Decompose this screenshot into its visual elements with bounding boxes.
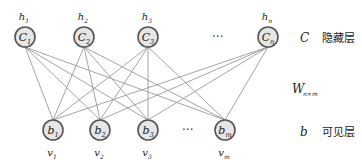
- hidden-layer-nodes: C1h1C2h2C3h3Cnhn: [15, 11, 278, 47]
- diagram-svg: C1h1C2h2C3h3Cnhn b1v1b2v2b3v3bmvm ··· ··…: [0, 0, 362, 167]
- visible-node-b1: b1v1: [43, 120, 63, 160]
- visible-unit-label: v2: [94, 147, 104, 160]
- hidden-unit-label: h2: [78, 11, 88, 24]
- edge-cn-bm: [225, 47, 268, 120]
- edge-c2-b3: [84, 47, 148, 120]
- hidden-unit-label: hn: [262, 11, 272, 24]
- visible-layer-symbol: b: [300, 125, 308, 139]
- visible-node-b3: b3v3: [138, 120, 158, 160]
- visible-layer-label: 可见层: [322, 126, 355, 139]
- visible-unit-label: vm: [218, 147, 230, 160]
- weight-edges: [25, 47, 268, 120]
- hidden-node-cn: Cnhn: [258, 11, 278, 47]
- hidden-ellipsis: ···: [212, 30, 223, 44]
- hidden-unit-label: h3: [142, 11, 152, 24]
- edge-c2-b1: [53, 47, 84, 120]
- visible-ellipsis: ···: [182, 123, 193, 137]
- edge-c3-b2: [100, 47, 148, 120]
- edge-cn-b3: [148, 47, 268, 120]
- edge-c3-b1: [53, 47, 148, 120]
- hidden-unit-label: h1: [19, 11, 29, 24]
- edge-cn-b1: [53, 47, 268, 120]
- visible-unit-label: v1: [47, 147, 56, 160]
- visible-node-bm: bmvm: [215, 120, 235, 160]
- edge-c2-bm: [84, 47, 225, 120]
- visible-node-b2: b2v2: [90, 120, 110, 160]
- rbm-diagram: C1h1C2h2C3h3Cnhn b1v1b2v2b3v3bmvm ··· ··…: [0, 0, 362, 167]
- hidden-layer-label: 隐藏层: [322, 32, 355, 45]
- hidden-node-c1: C1h1: [15, 11, 35, 47]
- weight-subscript: n×m: [303, 90, 318, 97]
- hidden-node-c3: C3h3: [138, 11, 158, 47]
- hidden-node-c2: C2h2: [74, 11, 94, 47]
- hidden-layer-symbol: C: [300, 31, 309, 45]
- visible-layer-nodes: b1v1b2v2b3v3bmvm: [43, 120, 235, 160]
- weight-matrix-label: W n×m: [292, 82, 318, 97]
- visible-unit-label: v3: [142, 147, 152, 160]
- edge-c1-b1: [25, 47, 53, 120]
- edge-c1-b2: [25, 47, 100, 120]
